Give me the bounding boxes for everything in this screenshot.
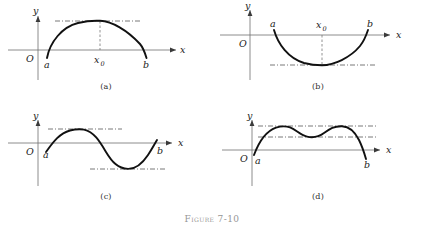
origin-label: O <box>239 38 247 49</box>
left-endpoint-label: a <box>43 149 49 160</box>
critical-point-subscript: 0 <box>323 25 327 33</box>
left-endpoint-label: a <box>255 155 261 166</box>
panel-c: x y O a b (c) <box>0 112 212 212</box>
x-axis-arrow <box>384 33 390 38</box>
panel-d-caption: (d) <box>212 192 424 201</box>
x-axis-label: x <box>396 29 402 40</box>
critical-point-subscript: 0 <box>101 60 105 68</box>
figure-caption: Figure 7-10 <box>0 214 424 226</box>
panel-b-plot: x y O a b x 0 <box>212 2 424 84</box>
function-curve <box>47 21 147 58</box>
x-axis-label: x <box>178 137 184 148</box>
x-axis-label: x <box>386 144 392 155</box>
function-curve <box>254 126 366 159</box>
critical-point-label: x <box>316 19 322 30</box>
function-curve <box>46 129 157 169</box>
panel-a-caption: (a) <box>0 82 212 91</box>
right-endpoint-label: b <box>143 59 149 70</box>
right-endpoint-label: b <box>364 159 370 170</box>
critical-point-label: x <box>94 54 100 65</box>
x-axis-arrow <box>166 141 172 146</box>
panel-c-caption: (c) <box>0 192 212 201</box>
x-axis-arrow <box>374 148 380 153</box>
panel-b-caption: (b) <box>212 82 424 91</box>
left-endpoint-label: a <box>44 59 50 70</box>
right-endpoint-label: b <box>367 18 373 29</box>
panel-d: x y O a b (d) <box>212 112 424 212</box>
origin-label: O <box>26 53 34 64</box>
panel-b: x y O a b x 0 (b) <box>212 2 424 102</box>
y-axis-label: y <box>246 110 253 121</box>
panel-a: x y O a b x 0 (a) <box>0 2 212 102</box>
origin-label: O <box>240 153 248 164</box>
y-axis-arrow <box>36 16 41 22</box>
x-axis-arrow <box>170 48 176 53</box>
x-axis-label: x <box>180 44 186 55</box>
panel-c-plot: x y O a b <box>0 112 212 194</box>
y-axis-label: y <box>32 110 39 121</box>
left-endpoint-label: a <box>270 18 276 29</box>
right-endpoint-label: b <box>157 145 163 156</box>
panel-d-plot: x y O a b <box>212 112 424 194</box>
y-axis-label: y <box>244 0 251 11</box>
figure-container: x y O a b x 0 (a) x y O a b x <box>0 0 424 226</box>
panel-a-plot: x y O a b x 0 <box>0 2 212 84</box>
y-axis-label: y <box>32 5 39 16</box>
origin-label: O <box>26 146 34 157</box>
